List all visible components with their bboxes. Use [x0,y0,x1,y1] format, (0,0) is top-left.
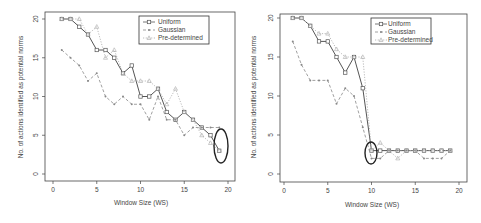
x-tick-label: 15 [412,187,420,194]
y-tick-label: 20 [32,15,39,23]
series-line-gaussian [293,41,451,158]
x-tick-label: 20 [455,187,463,194]
y-tick-label: 0 [32,172,39,176]
line-chart-right: 0510152005101520 No. of actions identifi… [240,0,481,223]
line-chart-left: 0510152005101520 No. of actions identifi… [0,0,240,223]
legend-gaussian: Gaussian [388,28,416,35]
legend-predetermined: Pre-determined [158,34,203,41]
x-tick-label: 0 [51,186,55,193]
x-tick-label: 20 [224,186,232,193]
y-axis-label: No. of actions identified as potential n… [250,35,258,158]
y-tick-label: 10 [32,93,39,101]
x-axis-label: Window Size (WS) [114,199,168,207]
legend-uniform: Uniform [158,18,181,25]
x-axis-label: Window Size (WS) [345,201,399,209]
legend-gaussian: Gaussian [158,26,186,33]
y-tick-label: 20 [267,14,274,22]
y-tick-label: 15 [32,54,39,62]
legend-predetermined: Pre-determined [388,36,433,43]
chart-left: 0510152005101520 No. of actions identifi… [0,0,240,223]
x-tick-label: 0 [282,187,286,194]
y-tick-label: 15 [267,53,274,61]
legend: Uniform Gaussian Pre-determined [371,18,433,44]
legend-uniform: Uniform [388,20,411,27]
x-tick-label: 10 [137,186,145,193]
y-tick-label: 5 [267,133,274,137]
y-tick-label: 5 [32,133,39,137]
x-tick-label: 15 [181,186,189,193]
y-axis-label: No. of actions identified as potential n… [17,35,25,158]
legend: Uniform Gaussian Pre-determined [139,16,209,44]
y-tick-label: 0 [267,172,274,176]
y-tick-label: 10 [267,92,274,100]
chart-right: 0510152005101520 No. of actions identifi… [240,0,480,223]
x-tick-label: 5 [326,187,330,194]
x-tick-label: 10 [368,187,376,194]
x-tick-label: 5 [95,186,99,193]
